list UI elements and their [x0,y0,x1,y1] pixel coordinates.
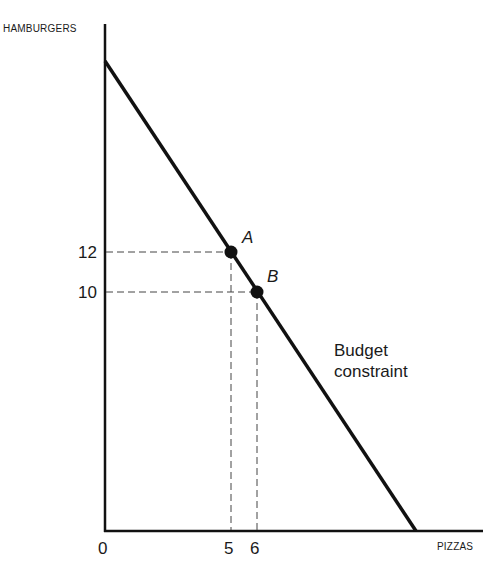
chart-canvas [0,0,504,584]
y-tick-12: 12 [78,243,97,263]
x-tick-0: 0 [98,539,107,559]
x-tick-5: 5 [224,539,233,559]
point-a-label: A [242,228,253,248]
point-a-marker [225,246,238,259]
point-b-marker [251,286,264,299]
x-axis-label: PIZZAS [437,541,473,552]
x-tick-6: 6 [250,539,259,559]
y-tick-10: 10 [78,283,97,303]
budget-constraint-label-line1: Budget [334,340,388,361]
budget-constraint-label-line2: constraint [334,361,408,382]
point-b-label: B [267,267,278,287]
y-axis-label: HAMBURGERS [3,23,77,34]
